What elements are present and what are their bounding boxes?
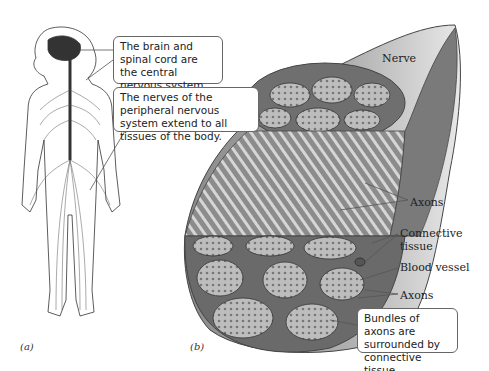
nerve-illustration bbox=[184, 25, 460, 353]
panel-label-a: (a) bbox=[20, 341, 34, 352]
callout-pns: The nerves of the peripheral nervous sys… bbox=[113, 87, 259, 132]
human-figure bbox=[22, 27, 120, 316]
label-axons-top: Axons bbox=[410, 196, 444, 209]
panel-label-b: (b) bbox=[190, 341, 204, 352]
label-blood-vessel: Blood vessel bbox=[400, 261, 469, 274]
label-axons-bottom: Axons bbox=[400, 289, 434, 302]
label-nerve: Nerve bbox=[382, 52, 416, 65]
callout-cns: The brain and spinal cord are the centra… bbox=[113, 36, 223, 84]
callout-bundles: Bundles of axons are surrounded by conne… bbox=[357, 308, 458, 353]
label-connective-tissue: Connective tissue bbox=[400, 227, 460, 253]
